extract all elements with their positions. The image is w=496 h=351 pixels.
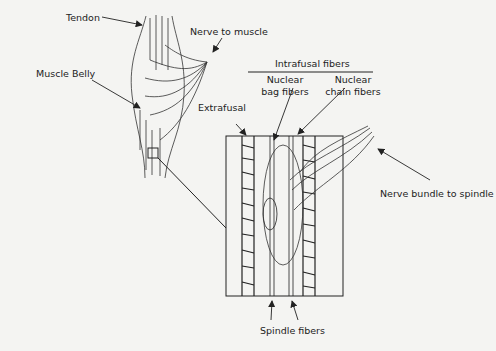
label-nuclear-chain-line1: Nuclear	[318, 74, 388, 85]
label-extrafusal: Extrafusal	[198, 102, 246, 113]
label-spindle-fibers: Spindle fibers	[260, 325, 325, 336]
label-intrafusal-fibers: Intrafusal fibers	[275, 58, 350, 69]
label-muscle-belly: Muscle Belly	[36, 68, 95, 79]
label-nuclear-bag-line1: Nuclear	[255, 74, 315, 85]
muscle-belly-illustration	[131, 15, 207, 178]
label-nerve-bundle: Nerve bundle to spindle	[380, 188, 494, 199]
label-nuclear-chain-line2: chain fibers	[318, 86, 388, 97]
muscle-spindle-diagram	[0, 0, 496, 351]
label-tendon: Tendon	[66, 12, 100, 23]
label-nuclear-bag-line2: bag fibers	[255, 86, 315, 97]
label-nerve-to-muscle: Nerve to muscle	[190, 26, 268, 37]
